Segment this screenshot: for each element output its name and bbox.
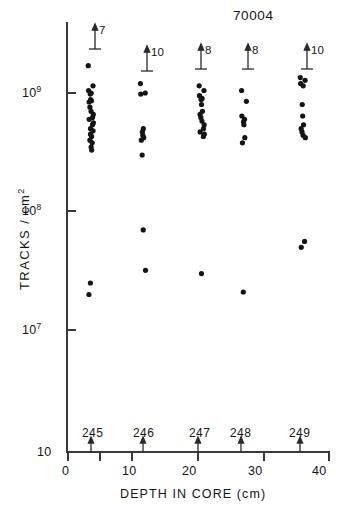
data-point bbox=[303, 135, 308, 140]
sample-pointer-249 bbox=[297, 437, 302, 452]
data-point bbox=[90, 83, 95, 88]
data-point bbox=[301, 83, 306, 88]
sample-pointer-arrows bbox=[88, 437, 302, 452]
sample-pointer-245 bbox=[88, 437, 93, 452]
data-point bbox=[201, 88, 206, 93]
data-point bbox=[242, 135, 247, 140]
data-point bbox=[138, 91, 143, 96]
upper-limit-arrow-248 bbox=[242, 44, 254, 69]
data-point bbox=[87, 117, 92, 122]
sample-pointer-248 bbox=[238, 437, 243, 452]
data-point bbox=[139, 138, 144, 143]
upper-limit-arrows bbox=[89, 24, 313, 71]
data-point bbox=[143, 90, 148, 95]
sample-pointer-246 bbox=[140, 437, 145, 452]
plot-canvas bbox=[0, 0, 354, 517]
data-point bbox=[88, 280, 93, 285]
data-point bbox=[240, 140, 245, 145]
data-point bbox=[199, 271, 204, 276]
data-point bbox=[241, 122, 246, 127]
upper-limit-arrow-247 bbox=[195, 44, 207, 69]
data-point bbox=[199, 97, 204, 102]
data-markers-group bbox=[86, 63, 308, 297]
upper-limit-arrow-246 bbox=[141, 46, 153, 71]
data-point bbox=[244, 99, 249, 104]
data-point bbox=[141, 227, 146, 232]
data-point bbox=[299, 245, 304, 250]
data-point bbox=[300, 102, 305, 107]
data-point bbox=[143, 268, 148, 273]
data-point bbox=[302, 239, 307, 244]
data-point bbox=[89, 148, 94, 153]
data-point bbox=[300, 113, 305, 118]
data-point bbox=[86, 292, 91, 297]
data-point bbox=[302, 78, 307, 83]
data-point bbox=[140, 152, 145, 157]
scatter-plot-figure: 70004 109 108 107 10 TRACKS / cm2 0 10 2… bbox=[0, 0, 354, 517]
data-point bbox=[298, 75, 303, 80]
data-point bbox=[86, 63, 91, 68]
sample-pointer-247 bbox=[195, 437, 200, 452]
data-point bbox=[197, 83, 202, 88]
data-point bbox=[239, 88, 244, 93]
data-point bbox=[138, 81, 143, 86]
data-point bbox=[241, 289, 246, 294]
data-point bbox=[199, 102, 204, 107]
data-point bbox=[201, 134, 206, 139]
data-point bbox=[88, 91, 93, 96]
data-point bbox=[87, 99, 92, 104]
upper-limit-arrow-245 bbox=[89, 24, 101, 49]
upper-limit-arrow-249 bbox=[301, 44, 313, 69]
